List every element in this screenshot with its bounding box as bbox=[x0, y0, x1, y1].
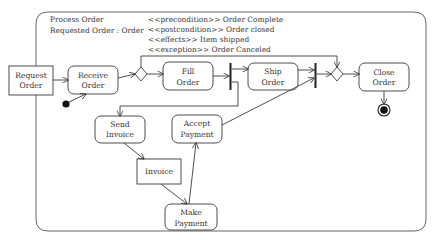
request-order-node[interactable]: Request Order bbox=[9, 66, 53, 95]
edge-make-payment-to-accept bbox=[189, 143, 196, 204]
activity-diagram: Process Order Requested Order : Order <<… bbox=[0, 0, 433, 240]
send-invoice-label-1: Send bbox=[110, 120, 130, 129]
close-order-label-2: Order bbox=[373, 78, 396, 87]
constraints-block: <<precondition>> Order Complete <<postco… bbox=[148, 15, 283, 54]
accept-payment-label-1: Accept bbox=[183, 119, 210, 128]
join-bar bbox=[315, 63, 317, 88]
fill-order-node[interactable]: Fill Order bbox=[163, 62, 213, 90]
activity-final-node bbox=[378, 104, 390, 116]
accept-payment-label-2: Payment bbox=[180, 130, 213, 139]
make-payment-label-1: Make bbox=[180, 208, 202, 217]
exception-text: <<exception>> Order Canceled bbox=[148, 45, 271, 54]
make-payment-label-2: Payment bbox=[174, 219, 207, 228]
activity-name: Process Order bbox=[50, 15, 104, 24]
edge-initial-to-receive bbox=[69, 94, 86, 102]
invoice-object-node[interactable]: Invoice bbox=[137, 159, 181, 184]
ship-order-node[interactable]: Ship Order bbox=[248, 63, 298, 90]
effects-text: <<effects>> Item shipped bbox=[148, 35, 249, 44]
send-invoice-label-2: Invoice bbox=[106, 130, 134, 139]
ship-order-label-2: Order bbox=[262, 78, 285, 87]
initial-node bbox=[62, 100, 69, 107]
receive-order-label-1: Receive bbox=[78, 71, 109, 80]
decision-node bbox=[135, 67, 147, 81]
accept-payment-node[interactable]: Accept Payment bbox=[172, 115, 222, 143]
request-order-label-2: Order bbox=[20, 81, 43, 90]
postcondition-text: <<postcondition>> Order closed bbox=[148, 25, 275, 34]
invoice-label: Invoice bbox=[145, 167, 173, 176]
precondition-text: <<precondition>> Order Complete bbox=[148, 15, 283, 24]
request-order-label-1: Request bbox=[15, 71, 46, 80]
close-order-label-1: Close bbox=[373, 68, 395, 77]
send-invoice-node[interactable]: Send Invoice bbox=[95, 116, 145, 143]
receive-order-label-2: Order bbox=[82, 81, 105, 90]
fill-order-label-2: Order bbox=[177, 78, 200, 87]
activity-header: Process Order Requested Order : Order bbox=[50, 15, 144, 35]
ship-order-label-1: Ship bbox=[264, 67, 282, 76]
edge-receive-to-decision bbox=[118, 74, 135, 78]
fork-bar bbox=[230, 63, 232, 90]
receive-order-node[interactable]: Receive Order bbox=[68, 66, 118, 94]
close-order-node[interactable]: Close Order bbox=[359, 63, 409, 91]
edge-send-invoice-to-invoice bbox=[124, 143, 144, 159]
activity-parameter: Requested Order : Order bbox=[50, 26, 144, 35]
merge-node bbox=[331, 67, 343, 81]
make-payment-node[interactable]: Make Payment bbox=[165, 204, 217, 230]
edge-invoice-to-make-payment bbox=[161, 184, 187, 204]
fill-order-label-1: Fill bbox=[182, 67, 195, 76]
